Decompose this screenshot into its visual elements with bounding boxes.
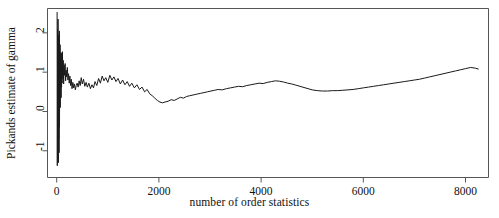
x-axis-ticks [57,178,466,183]
axis-frame [48,9,489,178]
plot-box-border [48,9,489,178]
x-tick-label: 2000 [147,185,170,197]
y-axis-ticks [43,33,48,151]
data-series-group [57,12,478,165]
x-tick-label: 6000 [352,185,375,197]
x-tick-label: 8000 [454,185,477,197]
pickands-estimate-line [57,12,478,165]
y-axis-title: Pickands estimate of gamma [5,27,17,159]
pickands-plot-figure: Pickands estimate of gamma number of ord… [0,0,499,218]
y-axis-title-wrap: Pickands estimate of gamma [0,0,22,186]
x-axis-title: number of order statistics [0,196,499,208]
x-tick-label: 0 [54,185,60,197]
x-tick-label: 4000 [250,185,273,197]
